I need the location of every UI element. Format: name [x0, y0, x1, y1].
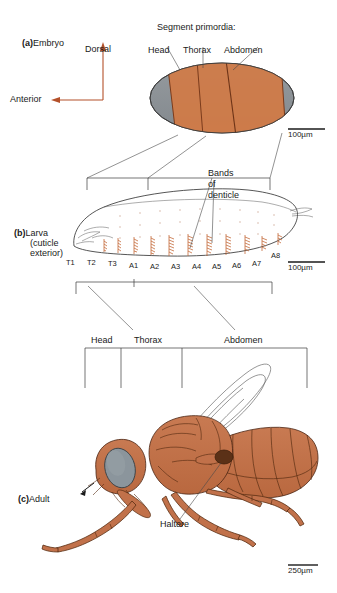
connector-embryo-to-larva [87, 133, 282, 190]
panel-label-adult: (c)Adult [18, 494, 50, 504]
larva-sensory-dots [119, 208, 275, 239]
panel-tag-c: (c) [18, 494, 29, 504]
embryo-body [150, 60, 294, 136]
panel-label-embryo: (a)Embryo [22, 38, 64, 48]
larva-segment-a4: A4 [192, 262, 201, 271]
primordia-label-abdomen: Abdomen [224, 45, 263, 55]
primordia-label-head: Head [148, 45, 170, 55]
connector-larva-to-adult [76, 279, 272, 330]
primordia-label-thorax: Thorax [183, 45, 211, 55]
panel-name-adult: Adult [29, 494, 50, 504]
axis-label-anterior: Anterior [10, 94, 42, 104]
adult-region-abdomen: Abdomen [224, 335, 263, 345]
adult-region-thorax: Thorax [134, 335, 162, 345]
panel-tag-a: (a) [22, 38, 33, 48]
haltere-label: Haltere [160, 519, 189, 529]
larva-segment-t2: T2 [87, 258, 96, 267]
anterior-arrowhead [51, 97, 60, 103]
panel-sub-larva-1: (cuticle [30, 238, 59, 248]
larva-segment-a1: A1 [129, 261, 138, 270]
bands-label-line2: of [208, 179, 216, 189]
larva-denticle-bands [104, 233, 282, 256]
axis-label-dorsal: Dorsal [85, 44, 111, 54]
embryo-scale-label: 100µm [288, 131, 313, 140]
larva-scale-label: 100µm [288, 264, 313, 273]
larva-segment-t3: T3 [108, 259, 117, 268]
segment-primordia-title: Segment primordia: [157, 22, 236, 32]
larva-body [74, 189, 313, 256]
adult-scale-label: 250µm [288, 567, 313, 576]
adult-region-head: Head [91, 335, 113, 345]
larva-segment-t1: T1 [66, 258, 75, 267]
larva-segment-a5: A5 [212, 262, 221, 271]
panel-name-larva: Larva [26, 228, 49, 238]
panel-name-embryo: Embryo [33, 38, 64, 48]
bands-label-line3: denticle [208, 190, 239, 200]
figure-artwork [0, 0, 337, 593]
figure-root: (a)Embryo Dorsal Anterior Segment primor… [0, 0, 337, 593]
bands-label-line1: Bands [208, 168, 234, 178]
larva-segment-a3: A3 [171, 262, 180, 271]
larva-segment-a8: A8 [271, 251, 280, 260]
adult-region-bracket [85, 348, 307, 388]
larva-segment-a2: A2 [150, 262, 159, 271]
panel-tag-b: (b) [14, 228, 26, 238]
larva-segment-a6: A6 [232, 261, 241, 270]
larva-segment-a7: A7 [252, 259, 261, 268]
panel-label-larva: (b)Larva [14, 228, 48, 238]
panel-sub-larva-2: exterior) [30, 248, 63, 258]
